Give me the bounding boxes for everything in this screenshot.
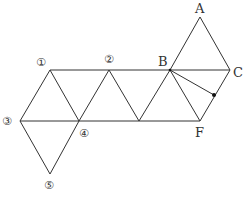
label-2: ②	[104, 53, 114, 66]
edge-2-mid	[109, 70, 139, 121]
edge-1-3	[20, 70, 50, 121]
point-B	[169, 69, 172, 72]
label-C: C	[233, 65, 243, 80]
edge-A-C	[200, 17, 230, 70]
edge-1-4	[50, 70, 79, 121]
label-5: ⑤	[44, 179, 54, 192]
edge-B-mid	[139, 70, 170, 121]
label-B: B	[158, 54, 168, 69]
label-1: ①	[36, 56, 46, 69]
edge-3-5	[20, 121, 50, 174]
edge-4-5	[50, 121, 79, 174]
label-3: ③	[2, 115, 12, 128]
label-A: A	[194, 1, 205, 16]
segment-B-point	[170, 70, 214, 95]
label-F: F	[195, 125, 204, 140]
point-on-CF	[212, 93, 216, 97]
octahedron-net-diagram: A B C F ① ② ③ ④ ⑤	[0, 0, 243, 207]
label-4: ④	[79, 127, 89, 140]
edge-2-4	[79, 70, 109, 121]
edge-B-F	[170, 70, 200, 121]
edge-A-B	[170, 17, 200, 70]
